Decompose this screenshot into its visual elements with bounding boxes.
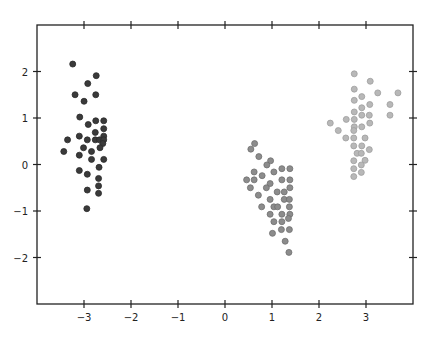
x-tick-label: 3 (363, 312, 369, 323)
data-point (387, 102, 393, 108)
data-point (89, 156, 95, 162)
data-point (275, 204, 281, 210)
data-point (278, 227, 284, 233)
data-point (351, 158, 357, 164)
data-point (84, 206, 90, 212)
data-point (259, 173, 265, 179)
data-point (247, 185, 253, 191)
data-point (286, 249, 292, 255)
data-point (287, 177, 293, 183)
data-point (351, 71, 357, 77)
data-point (351, 143, 357, 149)
data-point (85, 81, 91, 87)
data-point (279, 166, 285, 172)
data-point (84, 137, 90, 143)
data-point (279, 177, 285, 183)
data-point (97, 145, 103, 151)
data-point (274, 189, 280, 195)
x-tick-label: −2 (124, 312, 139, 323)
y-tick-label: −2 (13, 253, 28, 264)
data-point (93, 73, 99, 79)
data-point (367, 102, 373, 108)
data-point (251, 177, 257, 183)
data-point (81, 98, 87, 104)
data-point (387, 112, 393, 118)
data-point (358, 169, 364, 175)
data-point (351, 97, 357, 103)
data-point (287, 185, 293, 191)
data-point (286, 204, 292, 210)
data-point (366, 112, 372, 118)
data-point (375, 90, 381, 96)
data-point (366, 147, 372, 153)
data-point (359, 94, 365, 100)
data-point (84, 171, 90, 177)
data-point (77, 114, 83, 120)
data-point (255, 192, 261, 198)
data-point (279, 219, 285, 225)
data-point (96, 164, 102, 170)
data-point (248, 146, 254, 152)
x-tick-label: −1 (171, 312, 186, 323)
data-point (252, 141, 258, 147)
data-point (72, 92, 78, 98)
x-tick-label: 1 (269, 312, 275, 323)
data-point (93, 92, 99, 98)
x-tick-label: 0 (222, 312, 228, 323)
data-point (96, 183, 102, 189)
data-point (327, 120, 333, 126)
data-point (271, 169, 277, 175)
x-tick-label: 2 (316, 312, 322, 323)
data-point (256, 154, 262, 160)
data-point (343, 135, 349, 141)
data-point (93, 118, 99, 124)
data-point (76, 133, 82, 139)
data-point (367, 120, 373, 126)
y-tick-label: 1 (22, 113, 28, 124)
data-point (61, 148, 67, 154)
data-point (259, 204, 265, 210)
data-point (76, 168, 82, 174)
data-point (358, 162, 364, 168)
y-tick-label: 2 (22, 67, 28, 78)
data-point (286, 196, 292, 202)
data-point (267, 196, 273, 202)
data-point (92, 129, 98, 135)
data-point (395, 90, 401, 96)
data-point (85, 122, 91, 128)
data-point (359, 112, 365, 118)
scatter-chart: −3−2−10123 −2−1012 (0, 0, 441, 338)
data-point (282, 238, 288, 244)
data-point (285, 215, 291, 221)
data-point (359, 105, 365, 111)
data-point (351, 116, 357, 122)
data-point (358, 150, 364, 156)
data-point (65, 137, 71, 143)
y-tick-label: −1 (13, 206, 28, 217)
data-point (267, 211, 273, 217)
data-point (359, 124, 365, 130)
data-point (101, 118, 107, 124)
data-point (76, 152, 82, 158)
data-point (263, 185, 269, 191)
data-point (244, 177, 250, 183)
data-point (343, 116, 349, 122)
data-point (287, 166, 293, 172)
data-point (251, 169, 257, 175)
data-point (279, 211, 285, 217)
data-point (351, 109, 357, 115)
data-point (362, 135, 368, 141)
data-point (351, 86, 357, 92)
data-point (89, 148, 95, 154)
data-point (271, 219, 277, 225)
data-point (351, 128, 357, 134)
data-point (101, 126, 107, 132)
x-tick-label: −3 (77, 312, 92, 323)
data-point (269, 230, 275, 236)
data-point (286, 227, 292, 233)
data-point (351, 166, 357, 172)
data-point (96, 175, 102, 181)
data-point (101, 156, 107, 162)
data-point (351, 135, 357, 141)
data-point (96, 190, 102, 196)
